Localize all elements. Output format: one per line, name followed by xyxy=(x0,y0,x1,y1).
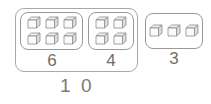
cube-icon xyxy=(185,24,199,38)
cube-icon xyxy=(27,32,41,46)
cube-grid-four xyxy=(95,16,128,46)
cube-grid-six xyxy=(26,16,77,46)
cube-icon xyxy=(63,32,77,46)
cube-icon xyxy=(45,16,59,30)
number-bond-diagram: 6 4 3 1 0 xyxy=(0,0,211,104)
cube-icon xyxy=(149,24,163,38)
cube-icon xyxy=(95,16,109,30)
label-total-ten: 1 0 xyxy=(43,75,111,97)
label-group-four: 4 xyxy=(91,51,131,71)
cube-icon xyxy=(95,32,109,46)
cube-icon xyxy=(113,32,127,46)
cube-icon xyxy=(45,32,59,46)
cube-icon xyxy=(167,24,181,38)
cube-group-three xyxy=(145,13,203,49)
cube-icon xyxy=(63,16,77,30)
label-group-three: 3 xyxy=(154,49,194,69)
cube-icon xyxy=(113,16,127,30)
cube-group-four xyxy=(88,12,134,50)
label-group-six: 6 xyxy=(32,51,72,71)
cube-group-six xyxy=(20,12,83,50)
cube-icon xyxy=(27,16,41,30)
cube-grid-three xyxy=(149,24,200,38)
